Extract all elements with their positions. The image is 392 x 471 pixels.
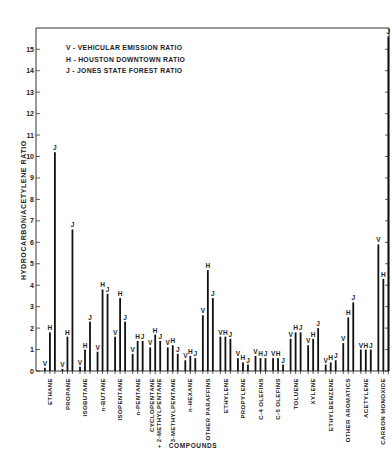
bar-label: H: [65, 329, 70, 336]
x-tick-label: n-BUTANE: [100, 378, 106, 411]
bar-chart: 0123456789101112131415 VHJVHJVHJVHJVHJVH…: [0, 0, 392, 471]
x-tick-label: PROPANE: [65, 378, 71, 410]
bar-label: V: [148, 339, 153, 346]
bar-label: V: [341, 335, 346, 342]
bar-label: V: [78, 359, 83, 366]
bar-label: H: [48, 324, 53, 331]
bar-label: H: [135, 333, 140, 340]
bar-H: [330, 362, 332, 371]
bar-label: H: [328, 354, 333, 361]
bar-V: [325, 365, 327, 371]
bar-label: H: [153, 327, 158, 334]
bar-J: [159, 341, 161, 371]
bar-label: H: [311, 331, 316, 338]
bar-J: [282, 365, 284, 371]
bar-label: H: [293, 324, 298, 331]
bar-V: [79, 367, 81, 371]
bar-label: V: [113, 329, 118, 336]
y-tick-label: 2: [30, 325, 34, 332]
bar-J: [352, 302, 354, 371]
bar-label: H: [100, 281, 105, 288]
y-tick-label: 14: [26, 67, 34, 74]
bar-label: J: [211, 290, 215, 297]
bar-J: [72, 229, 74, 371]
bar-V: [114, 337, 116, 371]
bar-J: [230, 339, 232, 371]
bar-J: [247, 365, 249, 371]
x-tick-label: ETHYLBENZENE: [328, 378, 334, 431]
y-tick-label: 15: [26, 46, 34, 53]
bar-H: [119, 298, 121, 371]
bar-H: [172, 345, 174, 371]
x-tick-label: ISOBUTANE: [82, 378, 88, 417]
bar-H: [225, 337, 227, 371]
bar-label: H: [381, 271, 386, 278]
bar-J: [317, 328, 319, 371]
bar-label: J: [281, 357, 285, 364]
bar-label: J: [106, 286, 110, 293]
y-tick-label: 3: [30, 303, 34, 310]
bar-V: [307, 345, 309, 371]
bar-H: [154, 335, 156, 371]
bar-V: [342, 343, 344, 371]
bar-J: [387, 36, 389, 371]
x-tick-label: XYLENE: [310, 378, 316, 404]
legend-item: V - VEHICULAR EMISSION RATIO: [66, 44, 182, 51]
x-tick-label: ISOPENTANE: [117, 378, 123, 421]
y-tick-label: 5: [30, 260, 34, 267]
x-tick-label: PROPYLENE: [240, 378, 246, 419]
bar-label: V: [376, 236, 381, 243]
x-tick-label: + 2-METHYLPENTANE: [156, 378, 162, 448]
bars: VHJVHJVHJVHJVHJVHJVHJVHJVHJVHJVHJVHJVHJV…: [43, 28, 391, 371]
y-tick-label: 12: [26, 110, 34, 117]
y-tick-label: 1: [30, 346, 34, 353]
bar-label: H: [223, 329, 228, 336]
x-axis-title: COMPOUNDS: [169, 442, 217, 449]
bar-label: V: [60, 361, 65, 368]
bar-label: H: [170, 337, 175, 344]
bar-label: J: [246, 357, 250, 364]
bar-label: J: [316, 320, 320, 327]
bar-H: [137, 341, 139, 371]
bar-label: J: [71, 221, 75, 228]
bar-V: [220, 337, 222, 371]
bar-label: J: [334, 352, 338, 359]
x-tick-label: n-HEXANE: [187, 378, 193, 412]
bar-H: [49, 332, 51, 371]
bar-label: J: [176, 346, 180, 353]
bar-label: H: [363, 342, 368, 349]
x-tick-label: n-PENTANE: [135, 378, 141, 416]
y-tick-label: 9: [30, 174, 34, 181]
bar-H: [102, 289, 104, 371]
bar-V: [149, 347, 151, 371]
bar-label: H: [258, 350, 263, 357]
y-axis-title: HYDROCARBON/ACETYLENE RATIO: [20, 140, 27, 280]
x-tick-label: ETHYLENE: [223, 378, 229, 413]
bar-J: [142, 341, 144, 371]
bar-label: V: [130, 346, 135, 353]
bar-label: H: [205, 262, 210, 269]
bar-V: [132, 354, 134, 371]
bar-label: J: [229, 331, 233, 338]
bar-J: [89, 322, 91, 371]
x-tick-label: CARBON MONOXIDE: [380, 378, 386, 445]
bar-label: V: [201, 307, 206, 314]
bar-label: V: [306, 337, 311, 344]
bar-V: [167, 347, 169, 371]
bar-H: [295, 332, 297, 371]
bar-H: [382, 279, 384, 371]
bar-label: V: [95, 344, 100, 351]
y-tick-label: 0: [30, 368, 34, 375]
x-tick-label: CYCLOPENTANE: [149, 378, 155, 432]
bar-V: [44, 368, 46, 371]
bar-label: J: [351, 294, 355, 301]
bar-label: V: [43, 360, 48, 367]
bar-H: [189, 356, 191, 371]
bar-H: [365, 350, 367, 371]
bar-V: [62, 369, 64, 371]
x-tick-label: C-4 OLEFINS: [258, 378, 264, 420]
bar-label: H: [346, 309, 351, 316]
bar-label: J: [88, 314, 92, 321]
y-tick-label: 6: [30, 239, 34, 246]
bar-label: H: [118, 290, 123, 297]
